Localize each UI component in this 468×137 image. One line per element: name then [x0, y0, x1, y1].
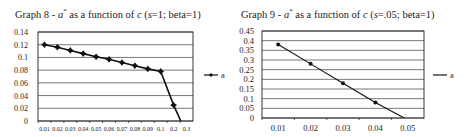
- data-point: [119, 60, 125, 66]
- data-point: [54, 44, 60, 50]
- x-tick-label: 0.09: [143, 126, 154, 132]
- y-tick-label: 0.25: [239, 65, 254, 75]
- plot-frame: [262, 31, 424, 118]
- data-point: [158, 68, 164, 74]
- y-tick-label: 0.06: [14, 79, 28, 88]
- legend: a: [433, 70, 454, 80]
- y-tick-label: 0: [24, 117, 28, 126]
- y-tick-label: 0.3: [243, 55, 254, 65]
- x-tick-label: 0.06: [104, 126, 115, 132]
- x-tick-label: 0.05: [91, 126, 102, 132]
- x-tick-label: 0.08: [130, 126, 141, 132]
- x-tick-label: 0.04: [78, 126, 89, 132]
- x-tick-label: 0.3: [183, 126, 191, 132]
- x-tick-label: 0.05: [400, 123, 415, 133]
- x-tick-label: 0.1: [157, 126, 165, 132]
- x-tick-label: 0.2: [170, 126, 178, 132]
- x-tick-label: 0.07: [117, 126, 128, 132]
- y-tick-label: 0.45: [239, 26, 254, 36]
- legend-label: a: [450, 70, 454, 80]
- y-tick-label: 0.4: [243, 36, 254, 46]
- x-tick-label: 0.02: [52, 126, 63, 132]
- data-point: [276, 43, 280, 47]
- legend: a: [204, 70, 225, 80]
- y-tick-label: 0.1: [243, 94, 254, 104]
- y-tick-label: 0.15: [239, 84, 254, 94]
- y-tick-label: 0.05: [239, 103, 254, 113]
- x-tick-label: 0.03: [65, 126, 76, 132]
- x-tick-label: 0.03: [336, 123, 351, 133]
- graph-9: Graph 9 - a* as a function of c (s=.05; …: [234, 0, 468, 137]
- x-tick-label: 0.04: [368, 123, 384, 133]
- x-tick-label: 0.01: [271, 123, 286, 133]
- y-tick-label: 0.04: [14, 92, 28, 101]
- plot-frame: [38, 32, 193, 121]
- y-tick-label: 0.35: [239, 45, 254, 55]
- data-point: [132, 63, 138, 69]
- x-tick-label: 0.01: [39, 126, 50, 132]
- graph-9-plot: 00.050.10.150.20.250.30.350.40.450.010.0…: [234, 0, 468, 137]
- y-tick-label: 0.02: [14, 104, 28, 113]
- legend-label: a: [221, 70, 225, 80]
- y-tick-label: 0.12: [14, 41, 28, 50]
- data-point: [309, 62, 313, 66]
- series-line: [44, 45, 186, 134]
- y-tick-label: 0: [250, 113, 254, 123]
- y-tick-label: 0.08: [14, 66, 28, 75]
- y-tick-label: 0.1: [18, 53, 28, 62]
- graph-8: Graph 8 - a* as a function of c (s=1; be…: [0, 0, 234, 137]
- data-point: [373, 101, 377, 105]
- data-point: [145, 66, 151, 72]
- data-point: [67, 47, 73, 53]
- data-point: [80, 51, 86, 57]
- y-tick-label: 0.14: [14, 28, 28, 37]
- data-point: [341, 81, 345, 85]
- y-tick-label: 0.2: [243, 74, 254, 84]
- data-point: [171, 102, 177, 108]
- data-point: [93, 54, 99, 60]
- graph-8-plot: 00.020.040.060.080.10.120.140.010.020.03…: [0, 0, 234, 137]
- data-point: [41, 42, 47, 48]
- x-tick-label: 0.02: [303, 123, 318, 133]
